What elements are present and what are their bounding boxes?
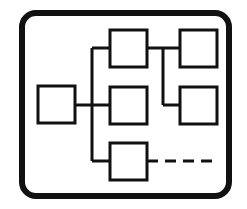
- node-top-right: [180, 30, 217, 67]
- block-diagram-icon: [0, 0, 247, 209]
- node-bottom-middle: [110, 143, 147, 180]
- node-left: [38, 86, 75, 123]
- node-top-middle: [110, 30, 147, 67]
- node-bottom-right: [180, 87, 217, 124]
- icon-canvas: [0, 0, 247, 209]
- node-center-middle: [110, 87, 147, 124]
